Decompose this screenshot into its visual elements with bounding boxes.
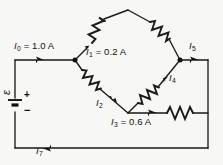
current-subscript-i4: 4: [172, 77, 176, 84]
circuit-diagram-figure: I0 = 1.0 A I1 = 0.2 A I2 I3 = 0.6 A I4 I…: [0, 0, 223, 165]
arrow-i7: [42, 145, 51, 152]
current-subscript-i0: 0: [17, 45, 21, 52]
current-label-i4: I4: [169, 73, 176, 83]
wire-diamond-top-right-b: [169, 39, 180, 60]
current-subscript-i3: 3: [114, 121, 118, 128]
battery-minus-label: −: [24, 105, 31, 116]
current-subscript-i5: 5: [192, 45, 196, 52]
wire-diamond-bottom-right-a: [128, 103, 138, 113]
node-right-dot: [178, 58, 183, 63]
wire-diamond-top-right-a: [128, 10, 150, 22]
current-value-i3: = 0.6 A: [121, 116, 152, 127]
current-subscript-i7: 7: [39, 150, 43, 157]
wire-diamond-bottom-left-b: [100, 89, 128, 113]
arrow-i4: [160, 77, 168, 86]
node-left-dot: [73, 58, 78, 63]
current-label-i1: I1 = 0.2 A: [86, 47, 126, 57]
current-label-i0: I0 = 1.0 A: [14, 41, 54, 51]
current-value-i1: = 0.2 A: [96, 46, 127, 57]
resistor-horizontal: [167, 107, 193, 119]
current-label-i5: I5: [189, 41, 196, 51]
circuit-schematic-svg: [0, 0, 223, 165]
resistor-bottom-right: [138, 86, 159, 105]
current-label-i3: I3 = 0.6 A: [111, 117, 151, 127]
current-label-i2: I2: [96, 98, 103, 108]
resistor-top-right: [150, 21, 170, 41]
current-subscript-i2: 2: [99, 102, 103, 109]
arrow-i0: [36, 57, 44, 64]
arrow-i5: [190, 57, 199, 64]
battery-plus-label: +: [24, 90, 30, 100]
emf-label: ε: [1, 90, 12, 95]
resistor-top-left: [89, 18, 106, 44]
wire-diamond-top-left-b: [104, 10, 128, 19]
current-label-i7: I7: [36, 146, 43, 156]
current-value-i0: = 1.0 A: [24, 40, 55, 51]
resistor-bottom-left: [82, 70, 101, 90]
current-subscript-i1: 1: [89, 51, 93, 58]
